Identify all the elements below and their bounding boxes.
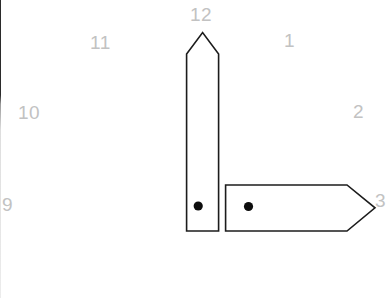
hour-numeral-9: 9 [2, 195, 13, 214]
minute-hand [223, 182, 379, 236]
hour-numeral-10: 10 [18, 103, 40, 122]
hour-numeral-11: 11 [90, 33, 111, 52]
hour-numeral-1: 1 [284, 31, 295, 50]
hour-hand-pivot-dot [194, 201, 203, 210]
hour-numeral-2: 2 [353, 102, 364, 121]
left-border-rule [0, 0, 1, 298]
hour-numeral-12: 12 [190, 5, 212, 24]
minute-hand-pivot-dot [244, 202, 253, 211]
hour-hand [184, 30, 222, 234]
clock-face: 11 12 1 10 2 9 3 [0, 0, 392, 298]
